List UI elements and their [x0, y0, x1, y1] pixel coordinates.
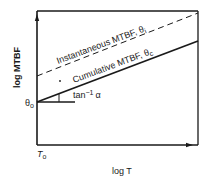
data-point	[59, 80, 61, 82]
slope-label: tan−1α	[73, 89, 101, 100]
x-axis-label: log T	[112, 166, 132, 176]
y-origin-label: θo	[25, 98, 34, 109]
y-axis-arrow-icon	[35, 14, 39, 21]
y-axis-label: log MTBF	[12, 47, 22, 88]
reliability-growth-diagram: Instantaneous MTBF, θi Cumulative MTBF, …	[0, 0, 209, 184]
x-origin-label: To	[37, 149, 47, 160]
x-axis-arrow-icon	[186, 143, 193, 147]
cumulative-mtbf-line	[37, 41, 198, 102]
